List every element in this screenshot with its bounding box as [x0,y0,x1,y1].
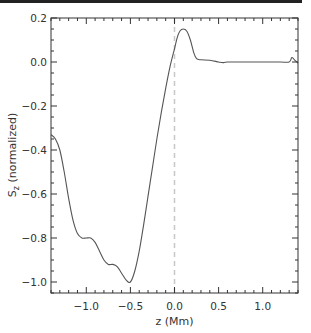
y-tick-label: −0.4 [22,144,48,156]
x-tick-label: 0.5 [210,300,227,312]
y-tick-label: 0.0 [30,56,47,68]
x-tick-label: 1.0 [254,300,271,312]
x-tick-label: −1.0 [74,300,100,312]
y-tick-label: −0.8 [22,232,48,244]
y-tick-label: −1.0 [22,276,48,288]
y-tick-label: 0.2 [30,12,47,24]
x-axis-title: z (Mm) [155,315,193,328]
axes: −1.0−0.50.00.51.0−1.0−0.8−0.6−0.4−0.20.0… [22,12,299,312]
y-tick-label: −0.6 [22,188,48,200]
y-axis-title: Sz (normalized) [6,113,21,197]
x-tick-label: −0.5 [118,300,144,312]
plot-area [51,18,298,293]
line-chart: −1.0−0.50.00.51.0−1.0−0.8−0.6−0.4−0.20.0… [0,0,311,333]
y-tick-label: −0.2 [22,100,48,112]
x-tick-label: 0.0 [166,300,183,312]
